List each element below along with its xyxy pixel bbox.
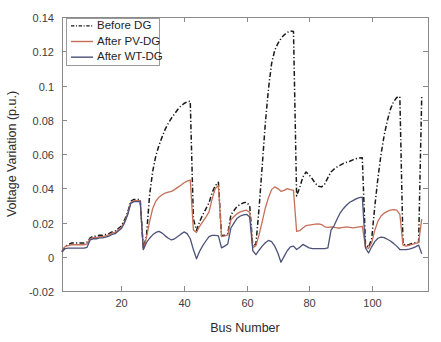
x-tick-label: 80 <box>303 297 315 309</box>
legend-label-before-dg: Before DG <box>97 19 151 31</box>
y-tick-label: 0 <box>48 252 54 264</box>
y-tick-label: 0.06 <box>33 149 54 161</box>
x-tick-label: 20 <box>115 297 127 309</box>
y-tick-label: 0.02 <box>33 218 54 230</box>
x-tick-label: 60 <box>241 297 253 309</box>
y-axis-title: Voltage Variation (p.u.) <box>5 91 19 217</box>
legend-label-after-pv-dg: After PV-DG <box>97 35 160 47</box>
y-tick-label: 0.1 <box>39 81 54 93</box>
chart-figure: -0.0200.020.040.060.080.10.120.14 204060… <box>0 0 441 342</box>
x-axis-title: Bus Number <box>210 321 279 335</box>
chart-legend: Before DGAfter PV-DGAfter WT-DG <box>67 19 163 66</box>
y-tick-label: 0.14 <box>33 12 54 24</box>
voltage-variation-line-chart: -0.0200.020.040.060.080.10.120.14 204060… <box>0 0 441 342</box>
y-tick-label: 0.04 <box>33 183 54 195</box>
y-tick-label: -0.02 <box>29 286 54 298</box>
legend-label-after-wt-dg: After WT-DG <box>97 50 163 62</box>
y-tick-label: 0.08 <box>33 115 54 127</box>
x-tick-label: 100 <box>363 297 381 309</box>
y-tick-label: 0.12 <box>33 46 54 58</box>
x-tick-label: 40 <box>178 297 190 309</box>
